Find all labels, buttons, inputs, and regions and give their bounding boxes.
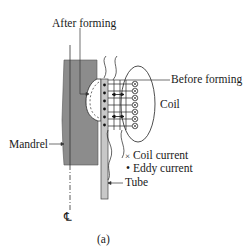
coil-current-text: Coil current xyxy=(133,149,188,161)
label-after-forming: After forming xyxy=(52,17,116,30)
coil-current-symbol: × xyxy=(125,151,130,161)
centerline-symbol: ℄ xyxy=(64,211,72,224)
diagram-drawing xyxy=(0,0,248,246)
figure-caption: (a) xyxy=(97,233,110,246)
label-mandrel: Mandrel xyxy=(9,138,48,151)
legend-coil-current: × Coil current xyxy=(125,149,188,163)
tube-shape xyxy=(101,79,108,199)
label-tube: Tube xyxy=(125,176,148,189)
label-before-forming: Before forming xyxy=(171,73,242,86)
label-coil: Coil xyxy=(160,98,180,111)
electromagnetic-forming-diagram: After forming Before forming Coil Mandre… xyxy=(0,0,248,246)
legend-eddy-current: • Eddy current xyxy=(126,162,193,175)
magnetic-field-grid xyxy=(108,80,132,130)
eddy-current-symbol: • xyxy=(126,162,130,174)
eddy-current-text: Eddy current xyxy=(133,162,193,174)
